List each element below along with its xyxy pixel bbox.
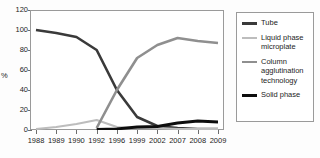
x-axis-tick-mark xyxy=(218,130,219,134)
x-axis-tick-mark xyxy=(36,130,37,134)
legend-swatch xyxy=(242,37,257,39)
legend-item: Tube xyxy=(242,18,309,28)
x-axis-tick-mark xyxy=(137,130,138,134)
series-line xyxy=(97,38,218,128)
y-axis: 120100806040200 xyxy=(2,10,28,130)
legend-swatch xyxy=(242,61,257,63)
series-line xyxy=(36,30,218,129)
legend-swatch xyxy=(242,22,257,25)
x-axis-tick-mark xyxy=(56,130,57,134)
y-axis-title: % xyxy=(1,71,8,80)
y-axis-tick-label: 60 xyxy=(6,66,28,74)
y-axis-tick-label: 40 xyxy=(6,86,28,94)
chart-legend: TubeLiquid phase microplateColumn agglut… xyxy=(236,12,314,122)
legend-label: Liquid phase microplate xyxy=(261,33,304,52)
x-axis-labels: 1988198919901992199619992002200720082009 xyxy=(24,136,230,150)
legend-label: Tube xyxy=(261,18,278,28)
legend-label: Solid phase xyxy=(261,90,300,100)
y-axis-tick-label: 20 xyxy=(6,106,28,114)
legend-item: Liquid phase microplate xyxy=(242,33,309,52)
y-axis-tick-label: 120 xyxy=(6,6,28,14)
x-axis-tick-mark xyxy=(178,130,179,134)
x-axis-tick-mark xyxy=(76,130,77,134)
legend-item: Column agglutination technology xyxy=(242,57,309,86)
plot-area xyxy=(30,10,224,130)
legend-swatch xyxy=(242,94,257,97)
x-axis-tick-label: 2009 xyxy=(206,136,230,145)
chart-screenshot: 120100806040200 % 1988198919901992199619… xyxy=(0,0,320,158)
x-axis-tick-mark xyxy=(117,130,118,134)
legend-label: Column agglutination technology xyxy=(261,57,304,86)
x-axis-tick-mark xyxy=(97,130,98,134)
y-axis-tick-label: 0 xyxy=(6,126,28,134)
y-axis-tick-label: 80 xyxy=(6,46,28,54)
x-axis-tick-mark xyxy=(198,130,199,134)
x-axis-tick-mark xyxy=(157,130,158,134)
y-axis-tick-label: 100 xyxy=(6,26,28,34)
legend-item: Solid phase xyxy=(242,90,309,100)
plot-lines xyxy=(30,10,224,130)
